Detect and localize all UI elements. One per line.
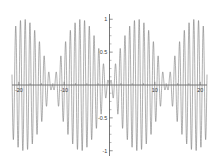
y-tick-label: 1 [104,16,107,22]
x-tick-label: 20 [197,87,203,93]
y-tick-label: -1 [103,148,108,154]
y-tick-label: -0.5 [98,115,107,121]
y-tick-label: 0.5 [100,49,108,55]
x-tick-label: -10 [60,87,68,93]
chart-figure: -20-101020-1-0.50.51 [0,0,219,165]
x-tick-label: 10 [152,87,158,93]
x-tick-label: -20 [15,87,23,93]
beat-waveform-chart: -20-101020-1-0.50.51 [0,0,219,165]
